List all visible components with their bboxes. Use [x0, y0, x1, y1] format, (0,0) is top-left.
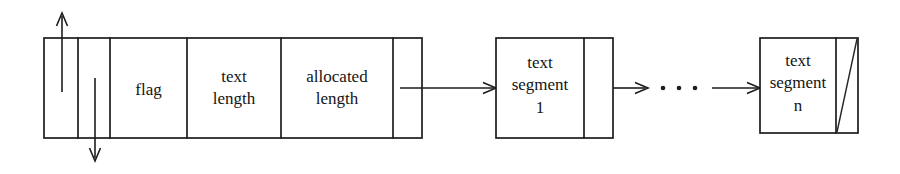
pointer-arrow-segment-1-to-ellipsis — [613, 83, 648, 94]
pointer-arrow-ellipsis-to-segment-n — [712, 83, 760, 94]
string-structure-diagram: flag text length allocated length text s… — [0, 0, 900, 174]
text-segment-1-background — [496, 38, 613, 138]
text-segment-n-background — [760, 38, 858, 133]
string-header-block-background — [44, 38, 422, 138]
diagram-vector-layer — [0, 0, 900, 174]
ellipsis-dots — [661, 86, 698, 91]
